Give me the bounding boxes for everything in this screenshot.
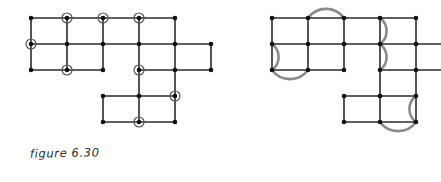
graph-vertex [342, 68, 347, 73]
graph-vertex [29, 16, 34, 21]
graph-arc-left [380, 44, 387, 70]
graph-vertex-marked [101, 16, 106, 21]
graph-vertex [101, 120, 106, 125]
graph-vertex [306, 16, 311, 21]
graph-vertex [378, 16, 383, 21]
graph-vertex [173, 120, 178, 125]
graph-vertex [173, 16, 178, 21]
graph-vertex-marked [137, 120, 142, 125]
graph-vertex [173, 68, 178, 73]
figure-631-panel: figure 6.31 [220, 0, 441, 182]
graph-vertex-marked [29, 42, 34, 47]
graph-vertex [101, 42, 106, 47]
graph-vertex [270, 42, 275, 47]
graph-vertex [29, 68, 34, 73]
graph-vertex [270, 68, 275, 73]
figure-631-graph [220, 0, 441, 182]
graph-arc-right [409, 96, 416, 122]
graph-vertex [342, 16, 347, 21]
graph-vertex [173, 42, 178, 47]
graph-vertex [101, 68, 106, 73]
graph-vertex [378, 120, 383, 125]
graph-vertex [209, 42, 214, 47]
graph-vertex-marked [65, 68, 70, 73]
graph-vertex-marked [137, 16, 142, 21]
graph-vertex [378, 94, 383, 99]
graph-vertex [342, 120, 347, 125]
graph-vertex-marked [173, 94, 178, 99]
graph-arc-left [272, 44, 279, 70]
graph-vertex [101, 94, 106, 99]
graph-vertex-marked [137, 68, 142, 73]
graph-vertex [414, 68, 419, 73]
graph-vertex [414, 42, 419, 47]
figure-630-panel: figure 6.30 [0, 0, 220, 182]
graph-vertex [414, 94, 419, 99]
graph-vertex [306, 42, 311, 47]
graph-vertex [65, 42, 70, 47]
graph-arc-down [272, 70, 308, 79]
graph-vertex [270, 16, 275, 21]
graph-vertex [414, 120, 419, 125]
graph-vertex [414, 16, 419, 21]
graph-arc-down [380, 122, 416, 131]
graph-vertex [378, 42, 383, 47]
graph-vertex [137, 42, 142, 47]
graph-vertex [209, 68, 214, 73]
figure-630-caption: figure 6.30 [30, 145, 100, 160]
graph-vertex [306, 68, 311, 73]
graph-arc-left [380, 18, 387, 44]
graph-vertex [137, 94, 142, 99]
graph-vertex [378, 68, 383, 73]
edge-layer [31, 18, 211, 122]
graph-vertex [342, 94, 347, 99]
graph-vertex [342, 42, 347, 47]
graph-arc-up [308, 9, 344, 18]
graph-vertex-marked [65, 16, 70, 21]
